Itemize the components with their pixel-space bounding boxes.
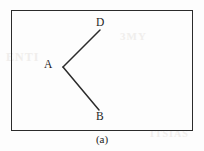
figure-container: ENTI 3MY ITSIAS D A B (a) (0, 0, 204, 151)
point-label-d: D (96, 17, 104, 29)
point-label-b: B (96, 111, 104, 123)
ray-a-to-b (63, 67, 99, 110)
ray-a-to-d (63, 30, 100, 67)
figure-caption: (a) (0, 134, 204, 145)
point-label-a: A (44, 59, 52, 71)
